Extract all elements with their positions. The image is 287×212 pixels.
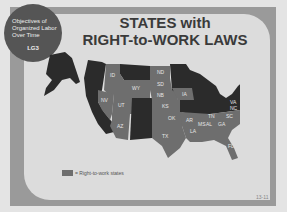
badge-line-1: Objectives of <box>12 18 62 25</box>
svg-text:WY: WY <box>132 85 141 91</box>
svg-text:ID: ID <box>110 72 115 78</box>
legend-swatch <box>62 170 73 176</box>
svg-text:AL: AL <box>206 121 212 127</box>
svg-text:NC: NC <box>230 105 238 111</box>
svg-text:MS: MS <box>198 121 206 127</box>
svg-text:LA: LA <box>190 128 197 134</box>
svg-text:FL: FL <box>228 143 234 149</box>
state-CO-NM <box>130 98 152 140</box>
state-MT <box>120 64 150 80</box>
state-AK <box>44 52 80 96</box>
title-line-1: STATES with <box>70 14 260 31</box>
svg-text:OK: OK <box>168 115 176 121</box>
svg-text:SD: SD <box>157 81 164 87</box>
page-number: 13-11 <box>256 194 268 200</box>
svg-text:NV: NV <box>101 97 109 103</box>
svg-text:AZ: AZ <box>117 123 123 129</box>
map-legend: = Right-to-work states <box>62 170 124 176</box>
svg-text:SC: SC <box>226 113 233 119</box>
svg-text:TX: TX <box>162 133 169 139</box>
badge-line-2: Organized Labor <box>12 25 62 32</box>
badge-line-3: Over Time <box>12 32 62 39</box>
svg-text:IA: IA <box>182 91 187 97</box>
slide-title: STATES with RIGHT-to-WORK LAWS <box>70 14 260 48</box>
svg-text:AR: AR <box>186 117 193 123</box>
svg-text:UT: UT <box>118 102 125 108</box>
svg-text:VA: VA <box>230 99 237 105</box>
svg-text:NB: NB <box>157 92 165 98</box>
us-map: ID WY NV UT AZ ND SD NB KS OK TX IA AR L… <box>40 50 240 160</box>
title-line-2: RIGHT-to-WORK LAWS <box>70 31 260 48</box>
svg-text:GA: GA <box>218 121 226 127</box>
svg-text:ND: ND <box>157 69 165 75</box>
svg-text:KS: KS <box>162 103 169 109</box>
svg-text:TN: TN <box>208 113 215 119</box>
legend-label: = Right-to-work states <box>75 170 124 176</box>
